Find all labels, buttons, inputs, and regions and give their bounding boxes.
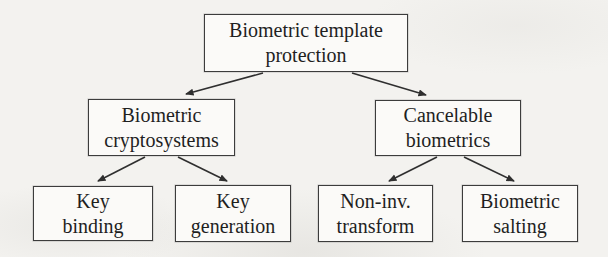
node-non-invertible-transform: Non-inv. transform — [318, 185, 433, 242]
node-label-line: Biometric — [122, 103, 202, 128]
node-key-generation: Key generation — [175, 185, 291, 242]
edge-root-cancelable — [352, 73, 426, 95]
edge-root-cryptosystems — [186, 73, 263, 94]
node-label-line: Biometric — [480, 189, 560, 214]
biometric-template-protection-diagram: Biometric template protection Biometric … — [0, 0, 608, 257]
edge-cryptosystems-key-generation — [178, 157, 227, 181]
node-label-line: protection — [265, 43, 346, 68]
node-label-line: Cancelable — [404, 103, 493, 128]
node-label-line: Non-inv. — [340, 189, 410, 214]
node-label-line: Biometric template — [229, 18, 383, 43]
node-label-line: generation — [191, 214, 275, 239]
node-biometric-salting: Biometric salting — [462, 185, 578, 242]
edge-cancelable-non-inv-transform — [389, 157, 437, 181]
node-label-line: binding — [62, 214, 123, 239]
node-label-line: Key — [76, 189, 109, 214]
node-label-line: biometrics — [406, 128, 490, 153]
node-label-line: Key — [216, 189, 249, 214]
node-key-binding: Key binding — [33, 186, 153, 241]
edge-cancelable-biometric-salting — [464, 157, 514, 181]
node-label-line: salting — [493, 214, 546, 239]
edge-cryptosystems-key-binding — [98, 157, 145, 181]
node-biometric-cryptosystems: Biometric cryptosystems — [88, 99, 235, 156]
node-cancelable-biometrics: Cancelable biometrics — [375, 100, 521, 156]
node-label-line: cryptosystems — [104, 128, 218, 153]
node-biometric-template-protection: Biometric template protection — [204, 14, 408, 72]
node-label-line: transform — [337, 214, 415, 239]
